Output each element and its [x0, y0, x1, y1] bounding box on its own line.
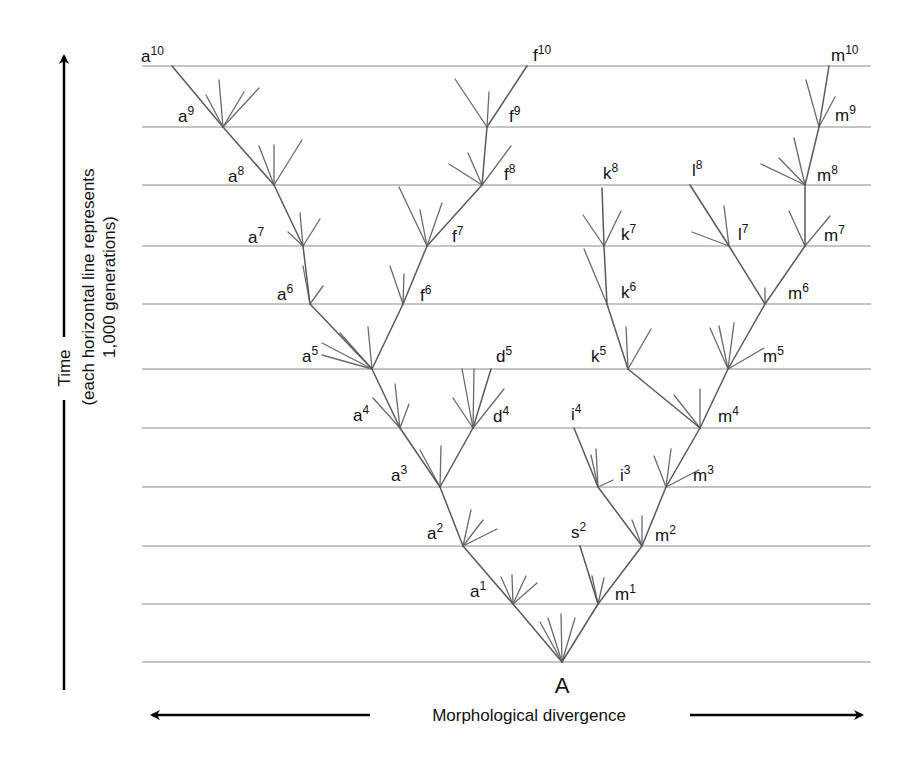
node-label-d4: d4: [493, 404, 509, 426]
extinct-twig: [288, 232, 303, 246]
node-label-m7: m7: [824, 223, 845, 245]
node-label-k6: k6: [621, 280, 637, 302]
extinct-twig: [274, 140, 302, 185]
extinct-twig: [692, 232, 729, 246]
node-label-a8: a8: [228, 164, 244, 186]
branch-a7-a8: [274, 185, 303, 246]
extinct-twig: [583, 215, 604, 246]
extinct-twig: [761, 164, 805, 185]
time-axis-label: Time: [55, 349, 74, 386]
branch-k7-k8: [602, 188, 604, 246]
extinct-twig: [779, 158, 805, 185]
branch-a3-d4: [440, 428, 473, 487]
extinct-twig: [728, 323, 734, 369]
extinct-twig: [390, 266, 403, 304]
extinct-twig: [440, 446, 441, 487]
extinct-twig: [674, 395, 700, 428]
root-label: A: [555, 673, 570, 698]
node-label-a3: a3: [391, 463, 407, 485]
branch-a3-a4: [400, 428, 440, 487]
divergence-axis: Morphological divergence: [152, 706, 862, 725]
time-axis-sublabel-line1: (each horizontal line represents: [79, 168, 98, 405]
node-label-a4: a4: [353, 403, 369, 425]
node-label-m8: m8: [817, 163, 838, 185]
extinct-twig: [420, 210, 427, 246]
branch-a5-f6: [372, 304, 403, 369]
extinct-twig: [562, 618, 575, 662]
node-label-m9: m9: [835, 103, 856, 125]
branch-A-a1: [513, 604, 562, 662]
extinct-twig: [373, 398, 400, 428]
node-label-a5: a5: [302, 344, 318, 366]
branch-f9-f10: [487, 66, 527, 127]
divergence-axis-label: Morphological divergence: [432, 706, 626, 725]
extinct-twig: [719, 326, 728, 369]
extinct-twig: [223, 92, 244, 127]
extinct-twig: [455, 79, 487, 127]
extinct-twig: [322, 343, 372, 369]
node-label-f9: f9: [509, 104, 521, 126]
extinct-twig: [473, 369, 474, 428]
node-label-a7: a7: [248, 225, 264, 247]
branch-i3-i4: [574, 428, 598, 487]
node-label-m5: m5: [763, 344, 784, 366]
node-label-a6: a6: [277, 282, 293, 304]
branch-m5-m6: [728, 304, 765, 369]
extinct-twig: [223, 88, 259, 127]
branch-A-m1: [562, 604, 598, 662]
extinct-twig: [512, 575, 513, 604]
extinct-twig: [400, 404, 409, 428]
time-axis: Time (each horizontal line represents 1,…: [55, 56, 119, 690]
node-label-k8: k8: [603, 161, 619, 183]
extinct-twig: [598, 480, 613, 487]
time-axis-sublabel-line2: 1,000 generations): [100, 216, 119, 358]
branch-d4-d5: [473, 369, 491, 428]
branch-m2-i3: [598, 487, 642, 546]
branch-f8-f9: [482, 127, 487, 185]
branch-m4-k5: [628, 369, 700, 428]
extinct-twig: [259, 146, 274, 185]
node-label-m10: m10: [831, 43, 859, 65]
node-label-a2: a2: [427, 521, 443, 543]
node-label-i4: i4: [571, 402, 582, 424]
node-label-m6: m6: [788, 281, 809, 303]
extinct-twig: [806, 80, 819, 127]
extinct-twig: [628, 329, 651, 369]
generation-lines: [142, 66, 871, 662]
extinct-twig: [513, 576, 526, 604]
node-label-i3: i3: [620, 463, 631, 485]
node-label-m1: m1: [615, 582, 636, 604]
branch-m6-l7: [729, 246, 765, 304]
branch-a4-a5: [372, 369, 400, 428]
node-label-m4: m4: [718, 404, 739, 426]
node-label-k7: k7: [621, 222, 637, 244]
node-label-m2: m2: [655, 523, 676, 545]
node-label-l7: l7: [738, 222, 749, 244]
extinct-twig: [561, 614, 562, 662]
extinct-twig: [710, 328, 728, 369]
node-label-d5: d5: [496, 344, 512, 366]
extinct-twig: [604, 211, 621, 246]
extinct-twigs: [206, 79, 835, 662]
node-label-s2: s2: [571, 520, 587, 542]
node-label-a9: a9: [178, 104, 194, 126]
branch-k5-k6: [607, 304, 628, 369]
extinct-twig: [399, 187, 427, 246]
branch-a2-a3: [440, 487, 463, 546]
node-label-f10: f10: [533, 43, 551, 65]
branch-a5-a6: [310, 304, 372, 369]
extinct-twig: [654, 456, 666, 487]
node-label-m3: m3: [693, 463, 714, 485]
node-label-f8: f8: [504, 162, 516, 184]
node-label-f7: f7: [452, 224, 464, 246]
node-label-l8: l8: [692, 158, 703, 180]
extinct-twig: [789, 211, 805, 246]
extinct-twig: [463, 529, 497, 546]
extinct-twig: [501, 577, 513, 604]
extinct-twig: [368, 327, 372, 369]
node-label-k5: k5: [591, 344, 607, 366]
node-label-f6: f6: [420, 283, 432, 305]
divergence-diagram: a1m1a2m2s2a3i3m3a4d4i4m4a5d5k5m5a6f6k6m6…: [0, 0, 913, 763]
extinct-twig: [303, 219, 320, 246]
node-label-a1: a1: [470, 579, 486, 601]
